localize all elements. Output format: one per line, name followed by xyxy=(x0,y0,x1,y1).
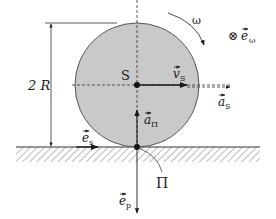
omega-label: ω xyxy=(192,14,201,27)
vs-sub: S xyxy=(180,74,185,83)
into-page-icon: ⊗ xyxy=(228,29,238,43)
vs-base: v xyxy=(173,67,180,81)
ep-sub: p xyxy=(126,201,131,210)
as-sub: S xyxy=(225,102,230,111)
center-label: S xyxy=(121,68,130,83)
dimension-label: 2 R xyxy=(27,78,50,93)
contact-label: Π xyxy=(156,175,168,191)
e-omega: ⊗ e ω xyxy=(228,29,256,45)
e-omega-base: e xyxy=(241,29,248,43)
unit-vector-es: e s xyxy=(76,131,98,147)
es-sub: s xyxy=(89,138,93,147)
e-omega-sub: ω xyxy=(249,36,256,45)
api-sub: Π xyxy=(151,120,158,129)
rolling-disc-diagram: 2 R ω ⊗ e ω S v S a S a Π e s xyxy=(0,0,276,219)
